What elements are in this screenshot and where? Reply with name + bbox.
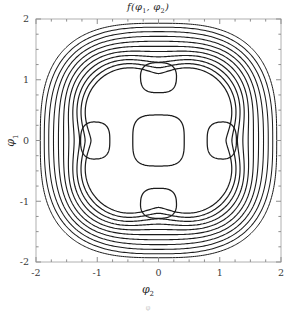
y-axis-label-subscript: 1 [12, 135, 20, 139]
contour-plot-figure: f(φ1, φ2) -2-1012210-1-2 φ2 φ1 φ [0, 0, 296, 311]
plot-title-mid: , φ [147, 1, 161, 12]
x-axis-label-subscript: 2 [150, 290, 154, 298]
plot-canvas: -2-1012210-1-2 [0, 0, 296, 311]
x-axis-label: φ2 [0, 283, 296, 298]
tick-label: -1 [93, 267, 102, 278]
tick-label: 0 [23, 135, 29, 146]
y-axis-label-symbol: φ [4, 139, 17, 147]
plot-title: f(φ1, φ2) [0, 1, 296, 15]
tick-label: 2 [278, 267, 284, 278]
tick-label: 1 [217, 267, 223, 278]
x-axis-label-symbol: φ [142, 283, 150, 296]
y-axis-label: φ1 [4, 121, 19, 161]
plot-title-fn: f(φ [127, 1, 142, 12]
tick-label: 0 [155, 267, 161, 278]
tick-label: 2 [23, 13, 29, 24]
plot-title-close: ) [165, 1, 169, 12]
tick-label: 1 [23, 74, 29, 85]
tick-label: -2 [31, 267, 40, 278]
plot-background [36, 19, 281, 262]
bottom-caption: φ [0, 303, 296, 311]
tick-label: -2 [20, 256, 29, 267]
tick-label: -1 [20, 196, 29, 207]
